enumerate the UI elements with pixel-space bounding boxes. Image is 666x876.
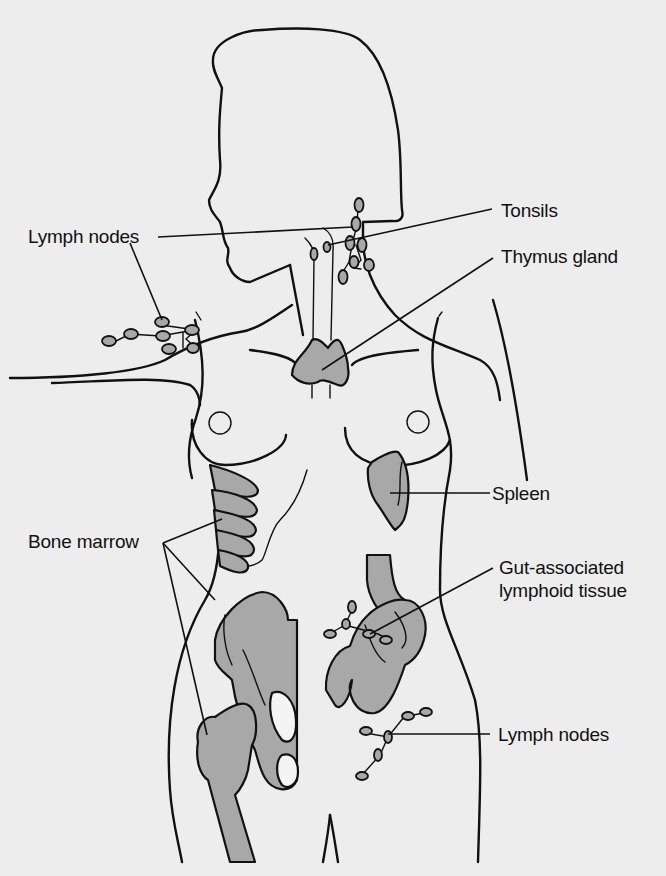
lymphatic-system-diagram: Tonsils Lymph nodes Thymus gland Spleen … bbox=[0, 0, 666, 876]
neck-left bbox=[290, 265, 303, 335]
torso-right-lower bbox=[440, 470, 480, 862]
label-lymph-nodes-groin: Lymph nodes bbox=[498, 724, 609, 746]
clavicle-left bbox=[250, 350, 297, 365]
torso-left-lower bbox=[169, 470, 220, 862]
pelvis-opening-2 bbox=[277, 754, 298, 787]
breast-left bbox=[192, 420, 286, 465]
head-outline bbox=[262, 29, 403, 235]
shoulder-left bbox=[10, 305, 292, 378]
thymus bbox=[292, 339, 348, 386]
label-lymph-nodes-neck: Lymph nodes bbox=[28, 226, 139, 248]
label-galt-line2: lymphoid tissue bbox=[499, 580, 627, 602]
tonsil-left bbox=[311, 248, 318, 260]
intestine-loops bbox=[326, 600, 426, 714]
label-galt-line1: Gut-associated bbox=[499, 557, 624, 579]
label-bone-marrow: Bone marrow bbox=[28, 531, 139, 553]
arm-upper-edge bbox=[52, 380, 200, 405]
lymph-nodes-axillary-leader bbox=[130, 243, 162, 320]
bone-marrow-leader-hip bbox=[163, 543, 215, 600]
bone-marrow-leader-ribs bbox=[163, 519, 222, 543]
leg-inner-right bbox=[330, 815, 338, 862]
label-tonsils: Tonsils bbox=[501, 200, 558, 222]
nipple-right bbox=[407, 411, 429, 433]
leg-inner-left bbox=[323, 815, 330, 862]
nipple-left bbox=[209, 412, 231, 434]
inguinal-lymph-nodes bbox=[356, 708, 432, 780]
lymph-nodes-neck-leader bbox=[158, 227, 353, 237]
label-spleen: Spleen bbox=[492, 483, 550, 505]
tonsil-right bbox=[324, 242, 331, 252]
clavicle-right bbox=[352, 350, 418, 365]
armpit-line bbox=[196, 312, 201, 320]
label-thymus-gland: Thymus gland bbox=[501, 246, 618, 268]
neck-right bbox=[363, 235, 500, 400]
bone-marrow-leader-femur bbox=[163, 543, 207, 735]
torso-right-tick bbox=[439, 312, 442, 316]
face-profile bbox=[209, 30, 290, 282]
